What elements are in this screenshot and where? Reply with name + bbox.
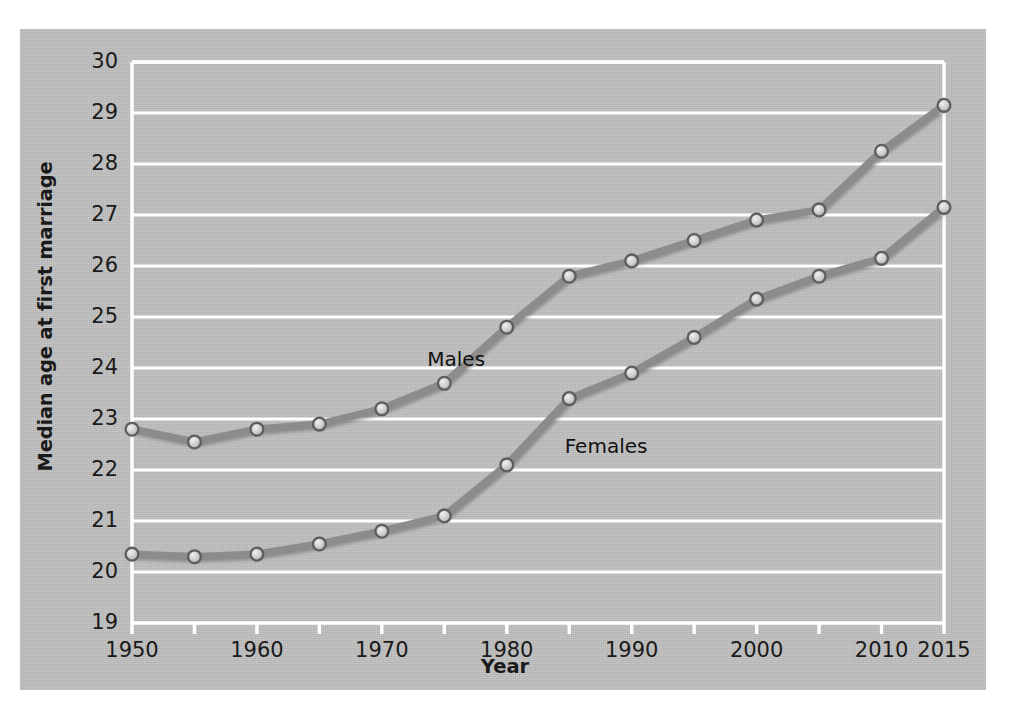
data-point-marker [500, 459, 513, 472]
data-point-marker [625, 255, 638, 268]
y-tick-label: 19 [78, 612, 118, 633]
data-point-marker [938, 99, 951, 112]
x-axis-title: Year [0, 655, 1010, 678]
data-point-marker [750, 293, 763, 306]
data-point-marker [563, 392, 576, 405]
series-line-females [132, 207, 944, 556]
data-point-marker [875, 252, 888, 265]
y-axis-title: Median age at first marriage [34, 152, 57, 482]
data-point-marker [188, 436, 201, 449]
data-point-marker [251, 423, 264, 436]
y-tick-label: 21 [78, 510, 118, 531]
data-point-marker [813, 204, 826, 217]
data-point-marker [688, 234, 701, 247]
data-point-marker [625, 367, 638, 380]
y-tick-label: 20 [78, 561, 118, 582]
chart-plot-area [0, 0, 1010, 715]
data-point-marker [375, 525, 388, 538]
data-point-marker [313, 538, 326, 551]
y-tick-label: 27 [78, 204, 118, 225]
series-label-females: Females [565, 434, 648, 458]
y-tick-label: 26 [78, 255, 118, 276]
data-point-marker [750, 214, 763, 227]
data-point-marker [126, 423, 139, 436]
data-point-marker [875, 145, 888, 158]
chart-figure: 192021222324252627282930 195019601970198… [0, 0, 1010, 715]
series-lines [132, 105, 944, 556]
data-point-marker [438, 510, 451, 523]
gridlines [132, 62, 944, 572]
axis-lines [132, 62, 944, 623]
y-tick-label: 28 [78, 153, 118, 174]
data-point-marker [938, 201, 951, 214]
data-point-marker [251, 548, 264, 561]
y-tick-label: 29 [78, 102, 118, 123]
series-label-males: Males [427, 347, 485, 371]
data-point-marker [375, 402, 388, 415]
data-point-marker [313, 418, 326, 431]
data-point-marker [126, 548, 139, 561]
y-tick-label: 23 [78, 408, 118, 429]
data-point-marker [500, 321, 513, 334]
y-tick-label: 24 [78, 357, 118, 378]
y-tick-label: 30 [78, 51, 118, 72]
y-tick-label: 22 [78, 459, 118, 480]
y-tick-label: 25 [78, 306, 118, 327]
series-markers [126, 99, 951, 563]
data-point-marker [688, 331, 701, 344]
data-point-marker [438, 377, 451, 390]
data-point-marker [188, 550, 201, 563]
data-point-marker [813, 270, 826, 283]
data-point-marker [563, 270, 576, 283]
